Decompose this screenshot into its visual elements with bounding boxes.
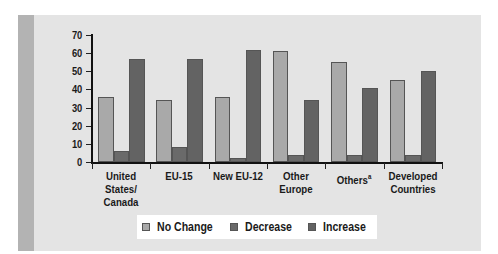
y-tick-mark	[86, 108, 91, 109]
y-axis-line	[91, 34, 93, 163]
bar-increase	[304, 100, 320, 162]
y-tick-label: 0	[63, 157, 82, 168]
x-category-separator	[267, 163, 268, 169]
legend-label-no-change: No Change	[157, 220, 213, 234]
legend-label-decrease: Decrease	[245, 220, 292, 234]
y-tick-label: 30	[63, 103, 82, 114]
chart-legend: No Change Decrease Increase	[137, 215, 377, 239]
x-category-label: DevelopedCountries	[382, 170, 444, 196]
x-category-label: OtherEurope	[265, 170, 327, 196]
legend-swatch-decrease	[230, 223, 238, 231]
y-tick-mark	[86, 144, 91, 145]
x-category-separator	[325, 163, 326, 169]
bar-no-change	[98, 97, 114, 162]
bar-increase	[129, 59, 145, 162]
bar-increase	[421, 71, 437, 162]
x-category-separator	[150, 163, 151, 169]
bar-increase	[246, 50, 262, 162]
y-tick-mark	[86, 53, 91, 54]
x-category-label: New EU-12	[207, 170, 269, 183]
bar-no-change	[156, 100, 172, 162]
bar-decrease	[347, 155, 363, 162]
bar-decrease	[405, 155, 421, 162]
y-tick-label: 40	[63, 84, 82, 95]
y-tick-mark	[86, 162, 91, 163]
legend-swatch-increase	[308, 223, 316, 231]
y-tick-mark	[86, 126, 91, 127]
legend-item-increase: Increase	[308, 220, 372, 234]
y-tick-label: 20	[63, 121, 82, 132]
y-tick-label: 70	[63, 30, 82, 41]
y-tick-label: 60	[63, 48, 82, 59]
y-tick-mark	[86, 35, 91, 36]
x-category-label: EU-15	[149, 170, 211, 183]
bar-increase	[187, 59, 203, 162]
legend-label-increase: Increase	[323, 220, 366, 234]
bar-decrease	[172, 147, 188, 162]
legend-item-no-change: No Change	[142, 220, 220, 234]
legend-item-decrease: Decrease	[230, 220, 298, 234]
y-tick-mark	[86, 71, 91, 72]
bar-no-change	[215, 97, 231, 162]
bar-no-change	[390, 80, 406, 162]
x-category-separator	[384, 163, 385, 169]
x-category-separator	[209, 163, 210, 169]
legend-swatch-no-change	[142, 223, 150, 231]
x-category-label: Othersa	[324, 170, 386, 187]
y-tick-label: 10	[63, 139, 82, 150]
x-category-separator	[442, 163, 443, 169]
bar-decrease	[114, 151, 130, 162]
x-category-separator	[92, 163, 93, 169]
y-tick-label: 50	[63, 66, 82, 77]
y-tick-mark	[86, 89, 91, 90]
bar-no-change	[331, 62, 347, 162]
bar-increase	[362, 88, 378, 162]
bar-decrease	[288, 155, 304, 162]
x-category-label: United States/Canada	[90, 170, 152, 209]
panel-side-stripe	[18, 15, 34, 251]
bar-no-change	[273, 51, 289, 162]
bar-decrease	[230, 158, 246, 162]
